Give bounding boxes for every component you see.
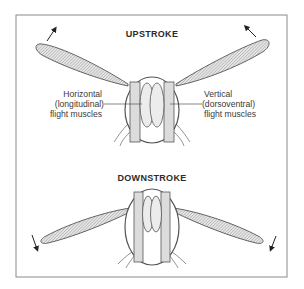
dorsoventral-muscle-left	[130, 82, 140, 142]
upstroke-panel: UPSTROKE Horizontal (	[36, 27, 269, 146]
arrow-down-right-icon	[271, 236, 276, 249]
flight-muscle-diagram: UPSTROKE Horizontal (	[0, 0, 304, 289]
downstroke-title: DOWNSTROKE	[118, 173, 187, 183]
right-wing-down	[174, 208, 263, 243]
left-wing-up	[36, 44, 128, 86]
left-wing-down	[41, 208, 130, 243]
svg-text:flight muscles: flight muscles	[50, 109, 102, 119]
svg-text:Horizontal: Horizontal	[63, 89, 102, 99]
svg-text:(dorsoventral): (dorsoventral)	[202, 99, 255, 109]
svg-text:flight muscles: flight muscles	[204, 109, 256, 119]
dorsoventral-muscle-right	[164, 82, 174, 142]
svg-text:Vertical: Vertical	[204, 89, 232, 99]
svg-text:(longitudinal): (longitudinal)	[55, 99, 104, 109]
longitudinal-muscle-right	[150, 83, 164, 127]
arrow-up-left-icon	[47, 29, 55, 41]
thorax-down	[125, 189, 179, 265]
upstroke-title: UPSTROKE	[126, 29, 178, 39]
downstroke-panel: DOWNSTROKE	[32, 173, 276, 268]
right-wing-up	[176, 40, 269, 86]
dorsoventral-muscle-right-down	[161, 192, 170, 262]
arrow-up-right-icon	[246, 27, 256, 37]
arrow-down-left-icon	[32, 235, 37, 249]
label-vertical-muscles: Vertical (dorsoventral) flight muscles	[170, 89, 256, 119]
dorsoventral-muscle-left-down	[134, 192, 143, 262]
longitudinal-muscle-right-down	[151, 196, 162, 232]
thorax-up	[125, 77, 179, 143]
